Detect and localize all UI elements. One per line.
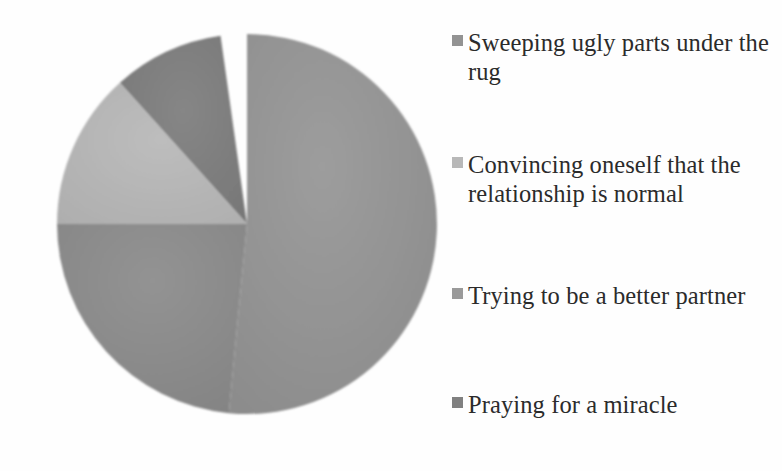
pie-slice-group: [57, 34, 437, 414]
legend-swatch-icon: [452, 397, 463, 408]
chart-legend: Sweeping ugly parts under the rug Convin…: [452, 22, 782, 442]
pie-chart-page: Sweeping ugly parts under the rug Convin…: [0, 0, 782, 471]
pie-chart-graphic: [0, 0, 460, 471]
legend-swatch-icon: [452, 157, 463, 168]
pie-slice[interactable]: [229, 34, 437, 414]
pie-slice[interactable]: [57, 224, 247, 413]
legend-item-convincing-oneself[interactable]: Convincing oneself that the relationship…: [452, 150, 772, 209]
legend-item-praying-for-a-miracle[interactable]: Praying for a miracle: [452, 390, 772, 419]
legend-item-sweeping-ugly-parts[interactable]: Sweeping ugly parts under the rug: [452, 28, 772, 87]
legend-swatch-icon: [452, 288, 463, 299]
pie-svg: [0, 0, 460, 471]
legend-item-label: Trying to be a better partner: [468, 281, 772, 310]
legend-item-label: Sweeping ugly parts under the rug: [468, 28, 772, 87]
legend-item-label: Convincing oneself that the relationship…: [468, 150, 772, 209]
legend-item-label: Praying for a miracle: [468, 390, 772, 419]
legend-item-trying-to-be-a-better-partner[interactable]: Trying to be a better partner: [452, 281, 772, 310]
legend-swatch-icon: [452, 35, 463, 46]
